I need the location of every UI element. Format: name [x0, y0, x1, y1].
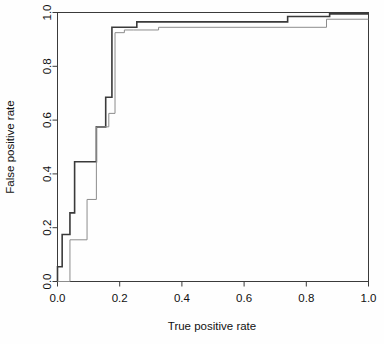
x-axis-ticks: 0.00.20.40.60.81.0 [50, 282, 377, 304]
data-series-group [58, 14, 369, 282]
y-tick-label: 0.0 [41, 274, 53, 290]
y-axis-ticks: 0.00.20.40.60.81.0 [41, 5, 58, 290]
x-axis-title: True positive rate [168, 320, 256, 332]
y-tick-label: 0.8 [41, 58, 53, 74]
y-tick-label: 0.4 [41, 165, 53, 182]
x-tick-label: 0.6 [236, 292, 252, 304]
y-tick-label: 1.0 [41, 5, 53, 21]
x-tick-label: 0.0 [50, 292, 66, 304]
x-tick-label: 1.0 [361, 292, 377, 304]
x-tick-label: 0.8 [298, 292, 314, 304]
y-axis-title: False positive rate [4, 100, 16, 193]
y-tick-label: 0.6 [41, 112, 53, 128]
series-line-curve-thin [58, 19, 369, 281]
series-line-curve-bold [58, 14, 369, 282]
plot-canvas: 0.00.20.40.60.81.0 0.00.20.40.60.81.0 Tr… [0, 0, 384, 344]
roc-chart: 0.00.20.40.60.81.0 0.00.20.40.60.81.0 Tr… [0, 0, 384, 344]
x-tick-label: 0.4 [174, 292, 191, 304]
plot-frame [58, 13, 369, 282]
y-tick-label: 0.2 [41, 220, 53, 236]
x-tick-label: 0.2 [112, 292, 128, 304]
